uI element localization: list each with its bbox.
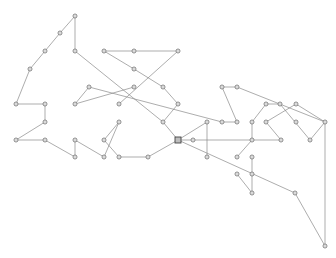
graph-edge: [296, 104, 325, 122]
graph-node: [132, 85, 136, 89]
graph-node: [132, 67, 136, 71]
graph-edge: [30, 51, 45, 69]
graph-node: [43, 102, 47, 106]
graph-edge: [45, 140, 75, 157]
graph-edge: [222, 87, 237, 122]
graph-edge: [104, 51, 134, 69]
graph-node: [73, 14, 77, 18]
graph-edge: [163, 104, 178, 122]
graph-edge: [163, 87, 178, 104]
graph-node: [161, 120, 165, 124]
graph-node: [58, 31, 62, 35]
graph-edge: [75, 87, 89, 104]
graph-edge: [104, 140, 119, 157]
graph-node: [14, 102, 18, 106]
graph-node: [250, 172, 254, 176]
graph-node: [14, 138, 18, 142]
graph-node: [323, 120, 327, 124]
graph-edge: [178, 140, 295, 193]
graph-edge: [16, 69, 30, 104]
graph-node: [132, 49, 136, 53]
graph-edge: [266, 104, 296, 122]
graph-node: [278, 102, 282, 106]
graph-edge: [104, 122, 119, 140]
graph-node: [220, 85, 224, 89]
graph-node: [102, 155, 106, 159]
graph-node: [264, 102, 268, 106]
graph-node: [279, 138, 283, 142]
graph-node: [250, 120, 254, 124]
graph-edge: [237, 174, 252, 193]
graph-edge: [75, 87, 134, 104]
graph-node: [294, 120, 298, 124]
graph-edge: [237, 140, 252, 157]
graph-node: [43, 49, 47, 53]
graph-node: [176, 102, 180, 106]
graph-edge: [266, 122, 281, 140]
graph-node: [293, 191, 297, 195]
graph-node: [73, 102, 77, 106]
graph-node: [117, 120, 121, 124]
graph-edge: [295, 193, 325, 246]
graph-node: [308, 138, 312, 142]
graph-node: [205, 120, 209, 124]
graph-node: [102, 138, 106, 142]
graph-node: [250, 138, 254, 142]
graph-node: [250, 191, 254, 195]
graph-edge: [16, 122, 45, 140]
graph-edges: [16, 16, 325, 246]
graph-node: [73, 155, 77, 159]
graph-node: [235, 172, 239, 176]
graph-node: [117, 102, 121, 106]
graph-edge: [89, 87, 222, 122]
graph-node: [117, 155, 121, 159]
graph-edge: [310, 122, 325, 140]
graph-node: [146, 155, 150, 159]
graph-edge: [75, 140, 104, 157]
graph-edge: [252, 104, 266, 122]
graph-node: [43, 120, 47, 124]
graph-node: [264, 120, 268, 124]
graph-node: [161, 85, 165, 89]
graph-node: [43, 138, 47, 142]
graph-node: [235, 120, 239, 124]
graph-node: [28, 67, 32, 71]
graph-canvas: [0, 0, 336, 258]
graph-node: [176, 49, 180, 53]
graph-edge: [60, 16, 75, 33]
graph-node: [87, 85, 91, 89]
graph-edge: [45, 33, 60, 51]
graph-node: [250, 155, 254, 159]
graph-edge: [134, 69, 163, 87]
graph-node: [323, 244, 327, 248]
graph-edge: [119, 51, 178, 104]
graph-node: [73, 49, 77, 53]
graph-node: [205, 155, 209, 159]
graph-node: [294, 102, 298, 106]
graph-node: [191, 138, 195, 142]
graph-node: [175, 137, 181, 143]
graph-node: [102, 49, 106, 53]
graph-node: [73, 138, 77, 142]
graph-edge: [178, 122, 207, 140]
graph-node: [235, 85, 239, 89]
graph-edge: [148, 140, 178, 157]
graph-node: [235, 155, 239, 159]
graph-node: [220, 120, 224, 124]
